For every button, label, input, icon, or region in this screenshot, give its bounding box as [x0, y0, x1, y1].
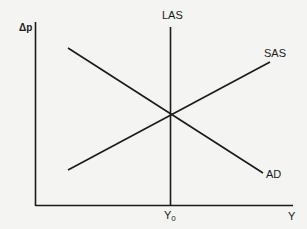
y-axis-label: Δp [19, 23, 32, 33]
las-label: LAS [162, 10, 183, 21]
sas-curve [68, 62, 270, 170]
y0-label: Y0 [164, 210, 176, 223]
x-axis-label: Y [288, 211, 295, 222]
y0-label-subscript: 0 [171, 214, 175, 223]
ad-as-diagram [0, 0, 307, 229]
sas-label: SAS [264, 48, 286, 59]
ad-label: AD [266, 169, 281, 180]
